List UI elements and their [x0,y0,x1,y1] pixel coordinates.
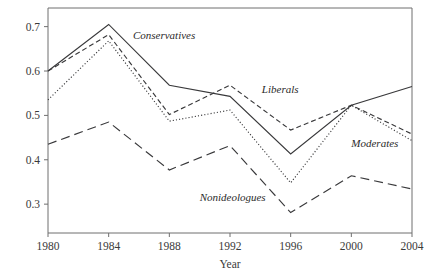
series-label-nonideologues: Nonideologues [199,191,266,203]
x-axis-title: Year [219,258,240,270]
series-line-liberals [48,35,412,134]
series-label-liberals: Liberals [261,83,299,95]
series-label-moderates: Moderates [350,137,398,149]
x-tick-label: 1980 [37,240,60,252]
y-tick-label: 0.7 [26,21,41,33]
x-tick-label: 2000 [340,240,363,252]
series-line-moderates [48,41,412,183]
series-label-conservatives: Conservatives [133,29,195,41]
x-tick-label: 1996 [279,240,302,252]
x-tick-label: 1984 [97,240,120,252]
chart-page: 0.30.40.50.60.7 198019841988199219962000… [0,0,431,274]
x-tick-label: 2004 [401,240,424,252]
y-tick-label: 0.5 [26,109,41,121]
x-axis-ticks: 1980198419881992199620002004 [37,233,424,252]
series-line-conservatives [48,24,412,154]
y-tick-label: 0.3 [26,198,41,210]
y-axis-ticks: 0.30.40.50.60.7 [26,21,48,211]
y-tick-label: 0.6 [26,65,41,77]
x-tick-label: 1988 [158,240,181,252]
x-tick-label: 1992 [219,240,242,252]
series-labels: ConservativesLiberalsModeratesNonideolog… [133,29,398,203]
series-lines [48,24,412,212]
line-chart: 0.30.40.50.60.7 198019841988199219962000… [0,0,431,274]
y-tick-label: 0.4 [26,154,41,166]
